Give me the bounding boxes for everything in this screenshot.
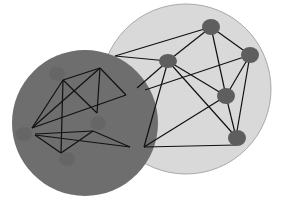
node <box>202 19 220 35</box>
node <box>159 54 177 68</box>
node <box>241 47 259 63</box>
node <box>90 116 106 130</box>
node <box>49 67 65 81</box>
node <box>16 127 32 141</box>
network-diagram <box>0 0 281 199</box>
cluster-dark <box>12 50 158 196</box>
node <box>228 130 246 146</box>
node <box>217 88 235 104</box>
node <box>59 152 75 166</box>
